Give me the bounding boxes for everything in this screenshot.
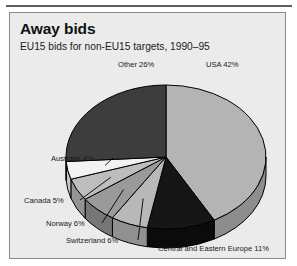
pie-label-norway: Norway 6% [46, 219, 85, 228]
pie-chart-svg: USA 42%Central and Eastern Europe 11%Swi… [10, 57, 285, 258]
pie-label-usa: USA 42% [206, 60, 239, 69]
pie-label-other: Other 26% [118, 60, 155, 69]
figure-page: Away bids EU15 bids for non-EU15 targets… [0, 0, 297, 266]
pie-label-switzerland: Switzerland 6% [66, 236, 119, 245]
pie-label-australia: Australia 4% [51, 154, 94, 163]
chart-panel: Away bids EU15 bids for non-EU15 targets… [9, 12, 286, 259]
top-rule-divider [6, 5, 292, 7]
chart-subtitle: EU15 bids for non-EU15 targets, 1990–95 [20, 41, 210, 52]
page-title: Away bids [20, 20, 95, 38]
pie-slice-other [66, 85, 166, 162]
pie-top-faces [66, 85, 266, 229]
pie-chart-plot: USA 42%Central and Eastern Europe 11%Swi… [10, 57, 285, 258]
pie-label-canada: Canada 5% [24, 196, 64, 205]
pie-label-central-and-eastern-europe: Central and Eastern Europe 11% [158, 244, 269, 253]
